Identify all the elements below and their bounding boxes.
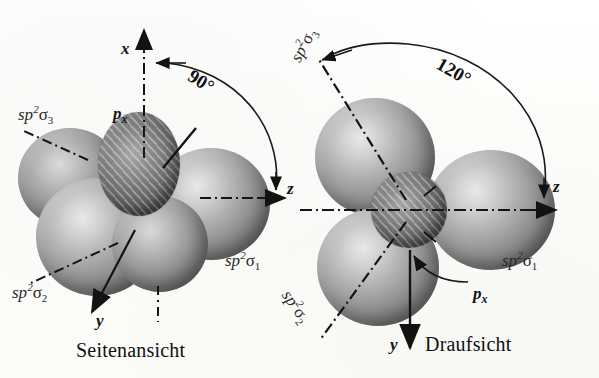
label-px-right: px [473,285,488,305]
label-y-axis-left: y [96,312,104,329]
p-orbital-sphere-px [371,172,447,248]
label-sp2-sigma-3-left: sp2σ3 [18,104,53,126]
px-sub: x [122,112,128,126]
orb-sigma: σ [246,251,255,270]
caption-draufsicht: Draufsicht [425,334,511,354]
orb-base: sp [225,251,240,270]
px-base: p [113,104,122,123]
label-z-axis-right: z [553,178,560,195]
label-z-axis-left: z [287,180,294,197]
px-base: p [473,284,482,303]
orb-sub: 2 [42,292,48,304]
label-sp2-sigma-1-left: sp2σ1 [225,250,260,272]
orb-sub: 1 [532,260,538,272]
orb-base: sp [12,283,27,302]
label-y-axis-right: y [390,336,398,353]
orb-sigma: σ [33,283,42,302]
sp2-hybrid-orbital-figure: sp2σ3 sp2σ2 sp2σ1 px x y z 90° Seitenans… [0,0,599,378]
label-px-left: px [113,105,128,125]
orb-base: sp [18,105,33,124]
label-x-axis-left: x [121,40,130,57]
px-sub: x [482,292,488,306]
orb-sigma: σ [39,105,48,124]
orb-sigma: σ [523,251,532,270]
orb-sub: 3 [48,114,54,126]
p-orbital-sphere-px [98,112,180,216]
panel-side-view [0,0,300,378]
caption-seitenansicht: Seitenansicht [76,340,185,360]
label-sp2-sigma-2-left: sp2σ2 [12,282,47,304]
label-sp2-sigma-1-right: sp2σ1 [502,250,537,272]
orb-base: sp [502,251,517,270]
orb-sub: 1 [255,260,261,272]
